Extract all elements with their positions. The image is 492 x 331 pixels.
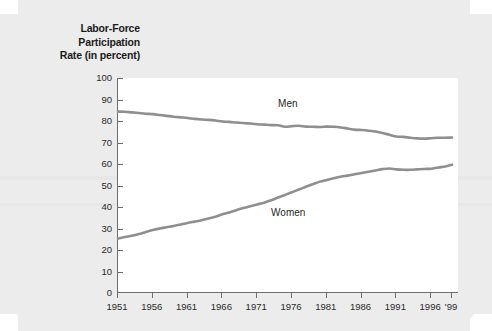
y-tick-mark [118, 143, 123, 144]
x-tick-label: 1986 [350, 301, 371, 312]
chart-title-line-3: Rate (in percent) [30, 49, 140, 63]
y-tick-mark [118, 100, 123, 101]
x-tick-mark [361, 293, 362, 298]
chart-title-line-1: Labor-Force [30, 22, 140, 36]
y-tick-label: 20 [86, 245, 112, 255]
x-tick-mark [256, 293, 257, 298]
y-tick-label: 50 [86, 181, 112, 191]
y-tick-mark [118, 164, 123, 165]
x-tick-label: 1971 [246, 301, 267, 312]
x-tick-label: 1981 [315, 301, 336, 312]
y-tick-label: 40 [86, 202, 112, 212]
y-tick-mark [118, 250, 123, 251]
x-tick-label: 1996 [420, 301, 441, 312]
x-tick-mark [451, 293, 452, 298]
x-tick-mark [430, 293, 431, 298]
series-line-women [118, 165, 452, 239]
series-label-women: Women [271, 207, 305, 218]
x-tick-label: 1976 [280, 301, 301, 312]
chart-title-line-2: Participation [30, 36, 140, 50]
y-tick-label: 70 [86, 138, 112, 148]
x-tick-label: 1966 [211, 301, 232, 312]
y-axis: 0102030405060708090100 [84, 78, 112, 293]
x-tick-mark [117, 293, 118, 298]
chart-title: Labor-Force Participation Rate (in perce… [30, 22, 140, 63]
y-tick-mark [118, 229, 123, 230]
y-tick-label: 30 [86, 224, 112, 234]
y-tick-label: 100 [86, 73, 112, 83]
x-tick-label: 1951 [106, 301, 127, 312]
plot-area: MenWomen [117, 78, 458, 293]
y-tick-label: 10 [86, 267, 112, 277]
x-axis: 1951195619611966197119761981198619911996… [117, 293, 458, 317]
y-tick-label: 80 [86, 116, 112, 126]
x-tick-label: 1961 [176, 301, 197, 312]
x-tick-label: 1991 [385, 301, 406, 312]
x-tick-mark [152, 293, 153, 298]
y-tick-mark [118, 78, 123, 79]
x-tick-label: 1956 [141, 301, 162, 312]
y-tick-label: 90 [86, 95, 112, 105]
y-tick-mark [118, 272, 123, 273]
y-tick-label: 0 [86, 288, 112, 298]
x-tick-mark [326, 293, 327, 298]
y-tick-mark [118, 207, 123, 208]
x-tick-mark [187, 293, 188, 298]
chart-figure: Labor-Force Participation Rate (in perce… [0, 0, 492, 331]
plot-inner: MenWomen [118, 78, 458, 292]
y-tick-mark [118, 121, 123, 122]
x-tick-mark [221, 293, 222, 298]
series-label-men: Men [278, 98, 297, 109]
x-tick-label: '99 [445, 301, 457, 312]
series-lines [118, 78, 459, 293]
x-tick-mark [291, 293, 292, 298]
y-tick-mark [118, 186, 123, 187]
series-line-men [118, 112, 452, 139]
x-tick-mark [395, 293, 396, 298]
y-tick-label: 60 [86, 159, 112, 169]
